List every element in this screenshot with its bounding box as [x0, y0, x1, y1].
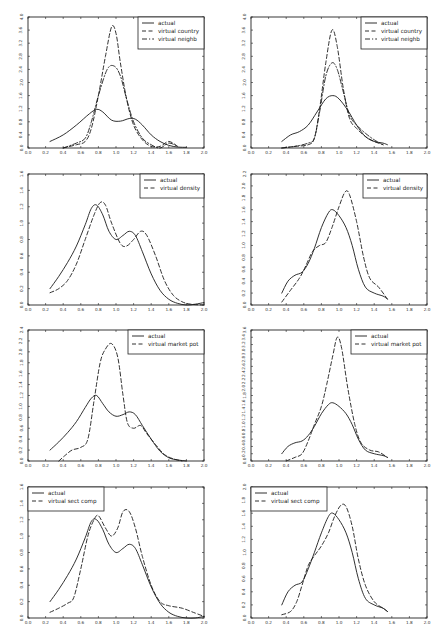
x-tick-label: 1.0 — [336, 620, 343, 625]
y-tick-label: 3.6 — [242, 326, 247, 333]
y-tick-label: 2.4 — [242, 66, 247, 73]
x-tick-label: 1.6 — [388, 620, 395, 625]
x-tick-label: 1.2 — [130, 150, 137, 155]
y-tick-label: 0.0 — [242, 457, 247, 464]
x-tick-label: 1.2 — [353, 463, 360, 468]
y-tick-label: 1.0 — [19, 219, 24, 226]
series-line-virtual-density — [282, 191, 388, 302]
chart-panel-r1c2: 0.00.20.40.60.81.01.21.41.61.82.00.00.40… — [223, 0, 446, 159]
legend-label: virtual neighb — [158, 36, 197, 43]
x-tick-label: 2.0 — [201, 620, 208, 625]
y-tick-label: 3.6 — [242, 26, 247, 33]
y-tick-label: 0.8 — [242, 562, 247, 569]
series-line-virtual-neighb — [63, 65, 177, 148]
x-tick-label: 1.4 — [371, 620, 378, 625]
legend-label: virtual country — [381, 28, 423, 35]
legend-label: actual — [48, 490, 66, 496]
legend: actualvirtual market pot — [351, 330, 427, 354]
x-tick-label: 0.8 — [318, 150, 325, 155]
x-tick-label: 0.6 — [77, 620, 84, 625]
y-tick-label: 1.2 — [19, 516, 24, 523]
legend-label: actual — [371, 333, 389, 339]
x-tick-label: 1.4 — [148, 620, 155, 625]
y-tick-label: 0.0 — [19, 614, 24, 621]
y-tick-label: 2.0 — [19, 348, 24, 355]
x-tick-label: 1.6 — [165, 150, 172, 155]
x-tick-label: 1.6 — [388, 307, 395, 312]
y-tick-label: 2.0 — [242, 182, 247, 189]
x-tick-label: 1.8 — [183, 620, 190, 625]
legend-label: virtual neighb — [381, 36, 420, 43]
x-tick-label: 0.0 — [25, 307, 32, 312]
line-chart: 0.00.20.40.60.81.01.21.41.61.82.00.00.20… — [223, 157, 446, 316]
x-tick-label: 0.0 — [248, 150, 255, 155]
figure-grid: 0.00.20.40.60.81.01.21.41.61.82.00.00.40… — [0, 0, 446, 636]
x-tick-label: 1.8 — [406, 307, 413, 312]
x-tick-label: 1.4 — [148, 307, 155, 312]
y-tick-label: 2.0 — [242, 483, 247, 490]
x-tick-label: 1.0 — [113, 463, 120, 468]
y-tick-label: 0.4 — [19, 131, 24, 138]
x-tick-label: 0.0 — [25, 463, 32, 468]
x-tick-label: 0.6 — [300, 307, 307, 312]
y-tick-label: 1.8 — [242, 496, 247, 503]
x-tick-label: 1.0 — [113, 150, 120, 155]
y-tick-label: 0.2 — [19, 598, 24, 605]
y-tick-label: 1.2 — [242, 230, 247, 237]
x-tick-label: 0.4 — [60, 620, 67, 625]
y-tick-label: 1.4 — [19, 187, 24, 194]
x-tick-label: 0.0 — [248, 307, 255, 312]
legend: actualvirtual density — [363, 174, 427, 198]
y-tick-label: 1.2 — [19, 105, 24, 112]
y-tick-label: 0.8 — [242, 118, 247, 125]
x-tick-label: 0.8 — [318, 620, 325, 625]
x-tick-label: 0.6 — [300, 463, 307, 468]
x-tick-label: 0.0 — [25, 150, 32, 155]
legend-label: virtual country — [158, 28, 200, 35]
series-line-actual — [282, 96, 388, 145]
x-tick-label: 2.0 — [424, 620, 431, 625]
line-chart: 0.00.20.40.60.81.01.21.41.61.82.00.00.20… — [0, 157, 223, 316]
y-tick-label: 1.4 — [19, 381, 24, 388]
y-tick-label: 0.0 — [242, 614, 247, 621]
y-tick-label: 0.2 — [19, 285, 24, 292]
x-tick-label: 1.6 — [165, 307, 172, 312]
x-tick-label: 1.6 — [388, 463, 395, 468]
y-tick-label: 1.8 — [242, 392, 247, 399]
y-tick-label: 0.6 — [242, 575, 247, 582]
x-tick-label: 0.2 — [42, 307, 49, 312]
series-line-actual — [282, 403, 388, 458]
y-tick-label: 1.2 — [242, 536, 247, 543]
chart-panel-r2c1: 0.00.20.40.60.81.01.21.41.61.82.00.00.20… — [0, 157, 223, 316]
chart-panel-r2c2: 0.00.20.40.60.81.01.21.41.61.82.00.00.20… — [223, 157, 446, 316]
x-tick-label: 0.4 — [283, 463, 290, 468]
x-tick-label: 0.2 — [265, 307, 272, 312]
x-tick-label: 0.6 — [300, 150, 307, 155]
y-tick-label: 2.6 — [242, 363, 247, 370]
y-tick-label: 1.6 — [242, 206, 247, 213]
y-tick-label: 0.2 — [242, 289, 247, 296]
x-tick-label: 1.4 — [148, 463, 155, 468]
y-tick-label: 4.0 — [19, 13, 24, 20]
x-tick-label: 0.8 — [318, 463, 325, 468]
line-chart: 0.00.20.40.60.81.01.21.41.61.82.00.00.20… — [223, 313, 446, 472]
chart-panel-r3c2: 0.00.20.40.60.81.01.21.41.61.82.00.00.20… — [223, 313, 446, 472]
y-tick-label: 0.4 — [242, 588, 247, 595]
series-line-actual — [50, 109, 186, 147]
y-tick-label: 0.0 — [242, 301, 247, 308]
x-tick-label: 1.4 — [148, 150, 155, 155]
y-tick-label: 3.6 — [19, 26, 24, 33]
x-tick-label: 0.8 — [95, 463, 102, 468]
y-tick-label: 2.2 — [242, 377, 247, 384]
x-tick-label: 1.6 — [165, 463, 172, 468]
legend: actualvirtual market pot — [128, 330, 204, 354]
series-line-actual — [282, 210, 388, 299]
line-chart: 0.00.20.40.60.81.01.21.41.61.82.00.00.40… — [0, 0, 223, 159]
y-tick-label: 0.8 — [19, 236, 24, 243]
x-tick-label: 0.2 — [265, 150, 272, 155]
x-tick-label: 0.0 — [248, 620, 255, 625]
y-tick-label: 1.2 — [242, 105, 247, 112]
y-tick-label: 0.4 — [242, 278, 247, 285]
y-tick-label: 0.4 — [242, 131, 247, 138]
legend-label: virtual density — [383, 185, 424, 192]
